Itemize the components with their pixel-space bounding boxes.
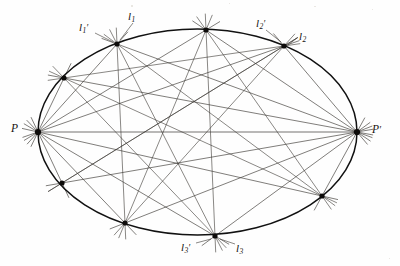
label-l2-prime-subscript: 2 [259, 22, 263, 31]
prime-mark: ′ [87, 23, 89, 33]
ray-P-to-G [27, 120, 136, 234]
label-l2-subscript: 2 [302, 35, 306, 44]
label-line-l3: l3 [236, 243, 243, 256]
chord-H-D [48, 38, 297, 192]
conic-point-D [281, 43, 286, 48]
leader-l1 [120, 23, 133, 40]
conic-point-H [59, 180, 64, 185]
label-l3-prime-subscript: 3 [184, 246, 188, 255]
label-l1-subscript: 1 [131, 15, 135, 24]
conic-point-C [203, 27, 208, 32]
label-point-P-prime: P′ [372, 124, 382, 136]
ray-P-prime-to-D [274, 34, 368, 144]
vertex-Pp [354, 129, 360, 135]
label-line-l1-prime: l1′ [79, 22, 89, 35]
label-P-text: P [11, 122, 18, 134]
ray-P-prime-to-A [48, 75, 372, 135]
conic-point-F [212, 233, 217, 238]
prime-mark: ′ [264, 19, 266, 29]
ray-P-prime-to-G [110, 126, 372, 229]
ray-P-to-B [27, 32, 127, 144]
chord-C-E [197, 17, 331, 209]
vertex-P [35, 129, 41, 135]
chord-A-F [53, 66, 226, 247]
label-line-l2-prime: l2′ [256, 18, 266, 31]
scan-speck-3 [372, 9, 373, 10]
label-point-P: P [11, 123, 18, 135]
chord-B-G [116, 28, 125, 239]
chord-G-D [114, 34, 294, 235]
scan-speck-4 [389, 258, 390, 259]
pencil-of-lines-from-P [22, 22, 357, 244]
scan-speck-1 [314, 6, 316, 7]
ray-P-prime-to-B [102, 38, 372, 137]
prime-mark: ′ [189, 243, 191, 253]
label-l3-subscript: 3 [239, 247, 243, 256]
label-line-l1: l1 [128, 11, 135, 24]
chord-A-E [49, 71, 336, 202]
conic-diagram [0, 0, 400, 266]
ray-P-prime-to-C [193, 21, 371, 141]
leader-l3p [196, 239, 211, 243]
figure-canvas: P P′ l1 l1′ l2′ l2 l3′ l3 [0, 0, 400, 266]
scan-speck-2 [229, 3, 230, 4]
ray-P-to-D [23, 41, 299, 138]
chord-C-G [119, 15, 212, 238]
label-line-l2: l2 [299, 31, 306, 44]
chord-C-F [205, 14, 215, 252]
label-l1-prime-subscript: 1 [82, 26, 86, 35]
leader-l2 [288, 38, 297, 45]
conic-point-G [122, 220, 127, 225]
ray-P-to-C [24, 22, 219, 141]
ray-P-to-E [22, 128, 337, 199]
ray-P-prime-to-F [202, 123, 370, 246]
label-P-prime-text: P [372, 123, 379, 135]
chord-B-E [104, 34, 335, 205]
scan-speck-0 [131, 5, 133, 7]
ray-P-prime-to-H [46, 129, 373, 185]
conic-point-B [114, 41, 119, 46]
label-line-l3-prime: l3′ [181, 242, 191, 255]
prime-mark: ′ [380, 124, 382, 135]
conic-point-A [61, 75, 66, 80]
label-leader-lines [95, 23, 297, 244]
conic-point-E [319, 193, 324, 198]
chord-B-F [110, 30, 223, 251]
